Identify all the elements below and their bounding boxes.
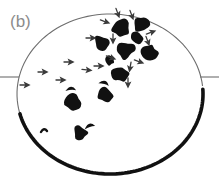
flow-arrow	[56, 77, 67, 84]
flow-arrow	[86, 35, 97, 42]
flow-arrow	[133, 57, 145, 67]
blob-shape	[111, 19, 129, 37]
blob-shape	[95, 36, 110, 51]
blob-shape	[131, 32, 144, 45]
boundary-tick-mark	[41, 129, 47, 132]
flow-arrow	[64, 59, 75, 66]
blob-shape	[98, 87, 115, 103]
flow-arrow	[110, 34, 117, 45]
figure-panel-b: (b)	[0, 0, 219, 187]
flow-arrow	[38, 69, 49, 76]
panel-label: (b)	[10, 12, 31, 31]
flow-arrow	[82, 66, 93, 74]
flow-arrow	[20, 82, 31, 89]
blob-shape	[141, 45, 160, 61]
blob-cluster	[64, 18, 160, 141]
blob-shape	[64, 93, 81, 111]
figure-svg: (b)	[0, 0, 219, 187]
flow-arrow	[113, 7, 123, 19]
blob-shape	[135, 18, 151, 32]
flow-arrow	[145, 27, 157, 37]
flow-arrow	[99, 17, 111, 27]
flow-arrow	[94, 63, 105, 70]
blob-shape	[117, 43, 137, 60]
